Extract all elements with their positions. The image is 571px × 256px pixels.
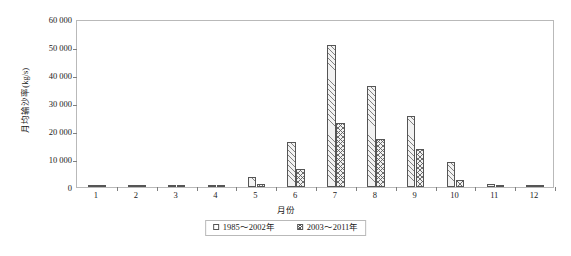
y-axis-tick-label: 40 000: [28, 72, 72, 81]
x-axis-tick-label: 12: [519, 190, 549, 200]
bar-series-2003-2011: [376, 139, 385, 187]
bar-series-2003-2011: [257, 184, 266, 187]
x-axis-tick-label: 1: [81, 190, 111, 200]
x-axis-tick-label: 8: [360, 190, 390, 200]
y-axis-tick-label: 50 000: [28, 44, 72, 53]
y-axis-tick-mark: [73, 133, 77, 134]
bar-series-1985-2002: [367, 86, 376, 187]
bar-group: [248, 21, 266, 187]
bar-series-1985-2002: [128, 185, 137, 187]
bar-series-2003-2011: [456, 180, 465, 187]
legend-item: 2003～2011年: [297, 223, 359, 232]
x-axis-tick-mark: [555, 187, 556, 191]
plot-inner: [77, 21, 553, 187]
bar-series-2003-2011: [496, 185, 505, 187]
bar-series-2003-2011: [177, 185, 186, 187]
x-axis-tick-label: 7: [320, 190, 350, 200]
x-axis-title: 月份: [0, 203, 571, 215]
bar-group: [168, 21, 186, 187]
x-axis-tick-label: 6: [280, 190, 310, 200]
x-axis-tick-label: 2: [121, 190, 151, 200]
legend-swatch-icon: [213, 224, 219, 230]
y-axis-tick-label: 0: [28, 184, 72, 193]
y-axis-tick-label: 60 000: [28, 16, 72, 25]
bar-group: [526, 21, 544, 187]
bar-group: [208, 21, 226, 187]
bar-series-1985-2002: [487, 184, 496, 187]
bar-series-2003-2011: [336, 123, 345, 187]
x-axis-tick-label: 5: [240, 190, 270, 200]
bar-series-1985-2002: [88, 185, 97, 187]
plot-area: [76, 20, 554, 188]
bar-group: [128, 21, 146, 187]
bar-series-2003-2011: [535, 185, 544, 187]
y-axis-tick-label: 10 000: [28, 156, 72, 165]
x-axis-tick-label: 3: [161, 190, 191, 200]
chart-figure: 月均输沙率(kg/s) 010 00020 00030 00040 00050 …: [0, 0, 571, 256]
legend-swatch-icon: [297, 224, 303, 230]
bar-series-2003-2011: [137, 185, 146, 187]
bar-series-1985-2002: [526, 185, 535, 187]
bar-series-1985-2002: [248, 177, 257, 187]
bar-group: [487, 21, 505, 187]
bar-group: [367, 21, 385, 187]
x-axis-tick-label: 9: [400, 190, 430, 200]
bar-series-1985-2002: [407, 116, 416, 187]
bar-series-2003-2011: [296, 169, 305, 187]
bar-series-1985-2002: [208, 185, 217, 187]
y-axis-tick-mark: [73, 77, 77, 78]
y-axis-tick-mark: [73, 105, 77, 106]
bar-series-2003-2011: [217, 185, 226, 187]
bar-group: [327, 21, 345, 187]
bar-series-1985-2002: [168, 185, 177, 187]
legend-item: 1985～2002年: [213, 223, 275, 232]
y-axis-tick-label: 20 000: [28, 128, 72, 137]
chart-legend: 1985～2002年2003～2011年: [205, 220, 367, 236]
legend-label: 1985～2002年: [223, 223, 275, 232]
bar-group: [447, 21, 465, 187]
y-axis-tick-labels: 010 00020 00030 00040 00050 00060 000: [30, 14, 74, 194]
bar-series-1985-2002: [327, 45, 336, 187]
bar-group: [88, 21, 106, 187]
x-axis-tick-label: 11: [479, 190, 509, 200]
x-axis-tick-label: 4: [200, 190, 230, 200]
bar-group: [287, 21, 305, 187]
bar-series-2003-2011: [416, 149, 425, 187]
bar-series-2003-2011: [97, 185, 106, 187]
y-axis-tick-mark: [73, 49, 77, 50]
bar-group: [407, 21, 425, 187]
x-axis-tick-labels: 123456789101112: [76, 190, 554, 204]
bar-series-1985-2002: [447, 162, 456, 187]
bar-series-1985-2002: [287, 142, 296, 187]
y-axis-tick-mark: [73, 161, 77, 162]
legend-label: 2003～2011年: [307, 223, 359, 232]
y-axis-tick-label: 30 000: [28, 100, 72, 109]
x-axis-tick-label: 10: [439, 190, 469, 200]
